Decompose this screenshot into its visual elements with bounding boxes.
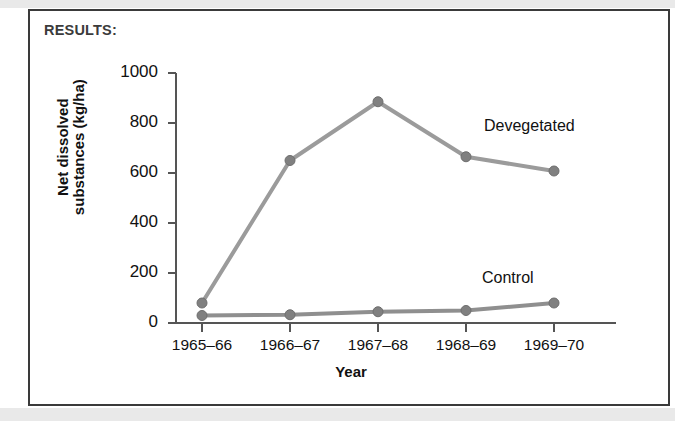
- chart-plot-area: Net dissolved substances (kg/ha) Year 02…: [30, 11, 672, 408]
- x-axis-ticks: [202, 323, 554, 332]
- y-axis-tick-label: 0: [98, 312, 158, 332]
- series-label-devegetated: Devegetated: [484, 117, 575, 135]
- data-point-marker: [373, 307, 383, 317]
- y-axis-title: Net dissolved substances (kg/ha): [55, 42, 87, 252]
- y-axis-title-line1: Net dissolved: [55, 42, 71, 252]
- data-point-marker: [461, 152, 471, 162]
- x-axis-tick-label: 1969–70: [499, 336, 609, 354]
- y-axis-tick-label: 600: [98, 162, 158, 182]
- y-axis-tick-label: 800: [98, 112, 158, 132]
- y-axis-tick-label: 1000: [98, 62, 158, 82]
- x-axis-title: Year: [30, 363, 672, 380]
- y-axis-ticks: [168, 73, 176, 323]
- data-point-marker: [285, 310, 295, 320]
- data-point-marker: [285, 156, 295, 166]
- chart-axes: [176, 73, 616, 323]
- figure-page: RESULTS: Net dissolved substances (kg/ha…: [0, 0, 675, 421]
- data-point-marker: [549, 298, 559, 308]
- scan-band-top: [0, 0, 675, 8]
- y-axis-tick-label: 200: [98, 262, 158, 282]
- y-axis-title-line2: substances (kg/ha): [71, 42, 87, 252]
- scan-band-bottom: [0, 408, 675, 421]
- data-point-marker: [461, 306, 471, 316]
- series-label-control: Control: [482, 269, 534, 287]
- data-point-marker: [549, 166, 559, 176]
- results-figure-box: RESULTS: Net dissolved substances (kg/ha…: [28, 9, 670, 406]
- data-point-marker: [197, 311, 207, 321]
- y-axis-tick-label: 400: [98, 212, 158, 232]
- data-point-marker: [197, 298, 207, 308]
- data-point-marker: [373, 97, 383, 107]
